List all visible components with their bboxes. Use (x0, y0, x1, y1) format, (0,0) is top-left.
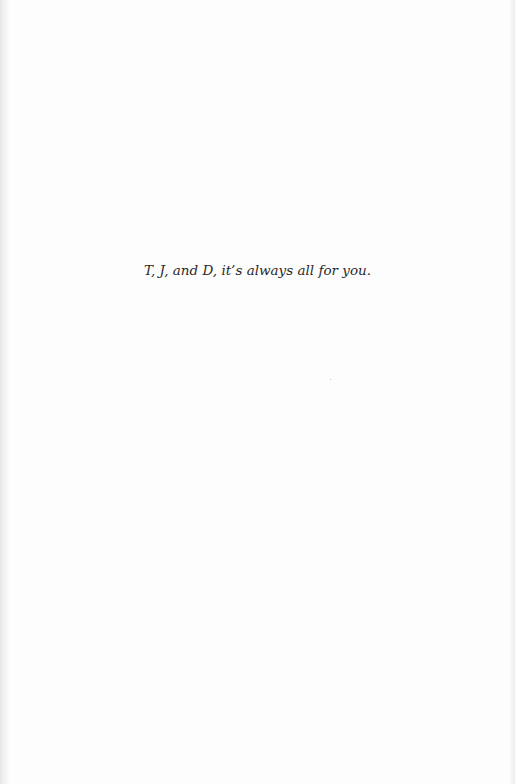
page-gutter-shadow-left (0, 0, 10, 784)
paper-speck (330, 379, 331, 380)
book-page: T, J, and D, it’s always all for you. (0, 0, 515, 784)
page-edge-shadow-right (509, 0, 515, 784)
dedication-text: T, J, and D, it’s always all for you. (0, 259, 515, 281)
